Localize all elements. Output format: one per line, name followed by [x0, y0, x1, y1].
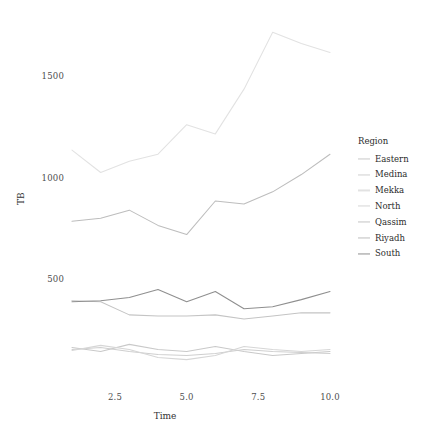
series-line [72, 32, 330, 172]
legend-item-label: Eastern [375, 155, 409, 164]
legend-line-swatch [358, 217, 370, 227]
x-tick-label: 5.0 [167, 392, 207, 402]
x-tick-label: 7.5 [238, 392, 278, 402]
legend-item-medina[interactable]: Medina [358, 167, 430, 183]
legend-item-north[interactable]: North [358, 198, 430, 214]
x-tick-label: 10.0 [310, 392, 350, 402]
legend-line-swatch [358, 185, 370, 195]
series-line [72, 301, 330, 319]
series-line [72, 154, 330, 234]
legend-title: Region [358, 136, 430, 146]
legend-item-qassim[interactable]: Qassim [358, 214, 430, 230]
legend-line-swatch [358, 201, 370, 211]
legend-item-south[interactable]: South [358, 246, 430, 262]
legend-item-eastern[interactable]: Eastern [358, 151, 430, 167]
y-tick-label: 500 [30, 274, 64, 284]
line-chart: 500 1000 1500 2.5 5.0 7.5 10.0 TB Time R… [0, 0, 430, 440]
legend-item-label: South [375, 249, 400, 258]
y-tick-label: 1500 [30, 71, 64, 81]
x-axis-title: Time [0, 411, 330, 421]
legend-item-mekka[interactable]: Mekka [358, 183, 430, 199]
legend-item-label: Qassim [375, 218, 407, 227]
series-line [72, 344, 330, 355]
legend-item-label: North [375, 202, 401, 211]
y-tick-label: 1000 [30, 173, 64, 183]
legend-item-label: Riyadh [375, 234, 405, 243]
y-axis-title: TB [16, 192, 26, 205]
legend-item-riyadh[interactable]: Riyadh [358, 230, 430, 246]
legend-line-swatch [358, 233, 370, 243]
legend-item-label: Medina [375, 170, 407, 179]
legend: Region EasternMedinaMekkaNorthQassimRiya… [358, 136, 430, 262]
legend-item-list: EasternMedinaMekkaNorthQassimRiyadhSouth [358, 151, 430, 262]
x-tick-label: 2.5 [95, 392, 135, 402]
legend-item-label: Mekka [375, 186, 404, 195]
legend-line-swatch [358, 170, 370, 180]
legend-line-swatch [358, 249, 370, 259]
legend-line-swatch [358, 154, 370, 164]
